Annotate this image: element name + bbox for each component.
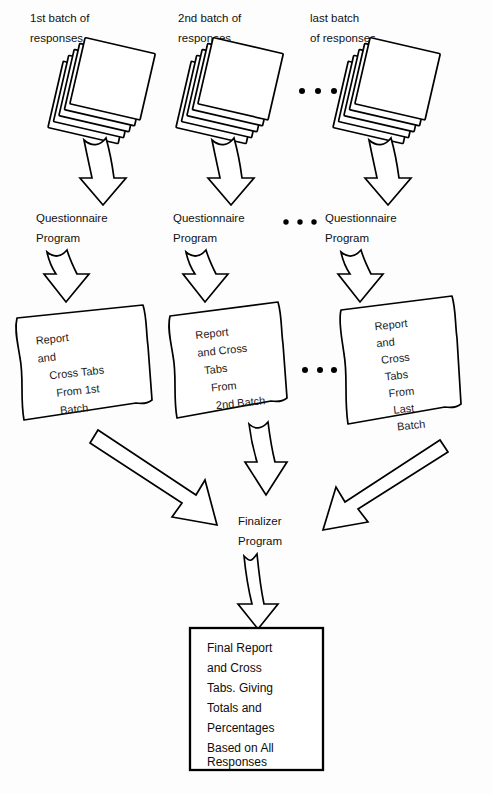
arrow-program-1-to-report-1 xyxy=(44,250,89,302)
final-output-line-4: Totals and xyxy=(207,701,262,715)
batch-2-label-line1: 2nd batch of xyxy=(178,12,242,24)
batch-3-label-line1: last batch xyxy=(310,12,359,24)
program-3-line2: Program xyxy=(325,232,369,244)
report-2-line-3: Tabs xyxy=(204,362,229,376)
arrow-report-1-to-finalizer xyxy=(90,430,217,525)
arrow-report-3-to-finalizer xyxy=(323,440,448,530)
report-1-line-5: Batch xyxy=(60,401,89,416)
report-document-2: Report and Cross Tabs From 2nd Batch xyxy=(169,302,287,418)
response-stack-1 xyxy=(48,34,155,147)
report-3-line-6: Last xyxy=(393,402,415,416)
ellipsis-reports xyxy=(302,367,337,373)
final-output-line-5: Percentages xyxy=(207,721,274,735)
flowchart-diagram: 1st batch of responses 2nd batch of resp… xyxy=(0,0,493,794)
report-1-line-2: and xyxy=(37,351,57,365)
report-document-3: Report and Cross Tabs From Last Batch xyxy=(340,296,461,434)
arrow-report-2-to-finalizer xyxy=(245,422,287,495)
arrow-stack-3-to-program-3 xyxy=(365,138,411,205)
report-3-line-2: and xyxy=(376,335,396,349)
report-3-line-4: Tabs xyxy=(384,368,409,382)
program-2-line1: Questionnaire xyxy=(173,212,245,224)
final-output-line-1: Final Report xyxy=(207,641,273,655)
batch-3-label-line2: of responses xyxy=(310,32,376,44)
final-output-box: Final Report and Cross Tabs. Giving Tota… xyxy=(190,628,323,770)
response-stack-3 xyxy=(333,34,440,147)
final-output-line-7: Responses xyxy=(207,755,267,769)
finalizer-program-line1: Finalizer xyxy=(238,515,282,527)
arrow-program-3-to-report-3 xyxy=(338,250,383,302)
flowchart-canvas: 1st batch of responses 2nd batch of resp… xyxy=(0,0,493,794)
report-document-1: Report and Cross Tabs From 1st Batch xyxy=(16,305,152,420)
program-2-line2: Program xyxy=(173,232,217,244)
program-3-line1: Questionnaire xyxy=(325,212,397,224)
report-3-line-7: Batch xyxy=(397,418,426,433)
batch-1-label-line2: responses xyxy=(30,32,83,44)
arrow-stack-2-to-program-2 xyxy=(208,138,254,205)
batch-1-label-line1: 1st batch of xyxy=(30,12,90,24)
final-output-line-2: and Cross xyxy=(207,661,262,675)
arrow-finalizer-to-final-output xyxy=(238,554,278,629)
finalizer-program-line2: Program xyxy=(238,535,282,547)
ellipsis-stacks xyxy=(299,88,337,94)
arrow-stack-1-to-program-1 xyxy=(80,138,126,205)
program-1-line2: Program xyxy=(36,232,80,244)
program-1-line1: Questionnaire xyxy=(36,212,108,224)
ellipsis-programs xyxy=(283,219,316,224)
final-output-line-6: Based on All xyxy=(207,741,274,755)
response-stack-2 xyxy=(176,34,283,147)
arrow-program-2-to-report-2 xyxy=(183,250,228,302)
final-output-line-3: Tabs. Giving xyxy=(207,681,273,695)
